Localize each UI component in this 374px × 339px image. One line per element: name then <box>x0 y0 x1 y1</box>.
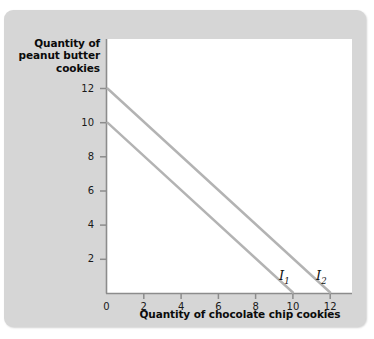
x-tick-label-0: 0 <box>95 301 119 312</box>
curve-label-I2: I2 <box>316 268 327 286</box>
y-axis-title: Quantity of peanut butter cookies <box>10 37 100 74</box>
y-tick-label-8: 8 <box>72 151 94 162</box>
x-tick-label-8: 8 <box>244 301 268 312</box>
curve-label-I1-subscript: 1 <box>284 276 289 286</box>
x-tick-label-12: 12 <box>318 301 342 312</box>
y-tick-label-4: 4 <box>72 219 94 230</box>
indifference-curve-I2 <box>108 89 331 293</box>
x-tick-label-2: 2 <box>132 301 156 312</box>
x-tick-label-4: 4 <box>169 301 193 312</box>
indifference-curve-I1 <box>108 123 293 293</box>
y-tick-label-10: 10 <box>72 117 94 128</box>
x-tick-label-10: 10 <box>281 301 305 312</box>
y-tick-label-2: 2 <box>72 253 94 264</box>
y-axis-ticks <box>100 89 106 260</box>
x-tick-label-6: 6 <box>206 301 230 312</box>
y-tick-label-6: 6 <box>72 185 94 196</box>
curve-label-I2-subscript: 2 <box>321 276 326 286</box>
y-tick-label-12: 12 <box>72 83 94 94</box>
curve-label-I1: I1 <box>279 268 290 286</box>
figure-panel: Quantity of peanut butter cookies Quanti… <box>4 10 366 327</box>
